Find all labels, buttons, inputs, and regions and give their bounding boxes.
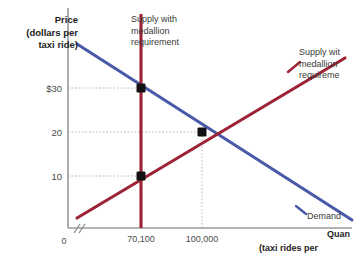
y-tick-label-20: 20 (28, 127, 62, 138)
annotation-supply-without-medallion-line1: Supply wit (299, 47, 340, 57)
annotation-supply-with-medallion-line1: Supply with (131, 14, 177, 24)
x-tick-label-70100: 70,100 (111, 234, 171, 244)
y-tick-label-30: $30 (28, 83, 62, 94)
x-axis-title: Quan (327, 229, 350, 239)
annotation-supply-without-medallion: Supply witmedallionrequireme (299, 47, 340, 82)
annotation-supply-with-medallion-line3: requirement (131, 37, 179, 47)
y-tick-label-10: 10 (28, 171, 62, 182)
y-axis-title-line2: (dollars per (26, 27, 78, 38)
gridlines (68, 88, 202, 228)
y-axis-title-line1: Price (55, 14, 78, 25)
x-tick-label-0: 0 (54, 236, 74, 246)
marker-supply-quantity (137, 172, 146, 181)
data-point-markers (137, 84, 207, 181)
demand-label-leader (296, 206, 306, 214)
marker-price-ceiling (137, 84, 146, 93)
axes (68, 8, 352, 228)
x-axis-subtitle: (taxi rides per (259, 243, 321, 253)
annotation-supply-with-medallion: Supply withmedallionrequirement (131, 14, 179, 49)
annotation-supply-without-medallion-line3: requireme (299, 70, 340, 80)
annotation-supply-with-medallion-line2: medallion (131, 26, 170, 36)
marker-equilibrium (198, 128, 207, 137)
y-axis-title-line3: taxi ride) (38, 39, 78, 50)
annotation-demand: Demand (307, 211, 341, 223)
annotation-supply-without-medallion-line2: medallion (299, 59, 338, 69)
x-tick-label-100000: 100,000 (171, 234, 233, 244)
y-axis-title: Price(dollars pertaxi ride) (4, 14, 78, 52)
supply-curve-no-medallion (77, 58, 345, 218)
supply-demand-chart: Price(dollars pertaxi ride) $30 20 10 0 … (0, 0, 363, 264)
